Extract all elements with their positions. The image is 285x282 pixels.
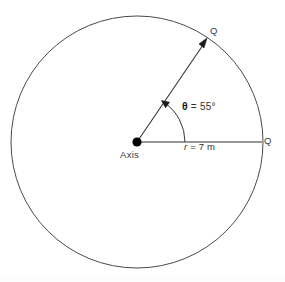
theta-angle-label: θ = 55°	[182, 101, 216, 112]
circle-angle-diagram: θ = 55° r = 7 m Axis Q Q	[0, 0, 285, 282]
bottom-margin	[0, 275, 285, 282]
radius-value: = 7 m	[187, 141, 215, 152]
diagram-canvas	[0, 0, 285, 282]
q-top-label: Q	[210, 26, 217, 36]
radius-length-label: r = 7 m	[184, 142, 215, 152]
angled-radius-line	[137, 45, 203, 142]
q-right-label: Q	[264, 136, 271, 146]
axis-label: Axis	[120, 150, 139, 160]
center-dot	[132, 137, 141, 146]
theta-value: = 55°	[188, 101, 216, 112]
angled-radius-arrowhead-icon	[199, 38, 207, 48]
